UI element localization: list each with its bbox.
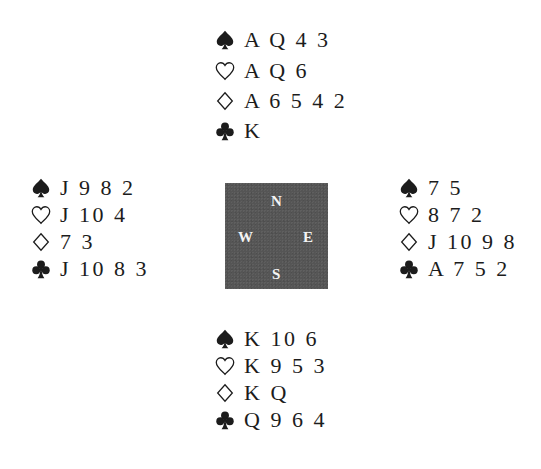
north-hand: A Q 4 3 A Q 6 A 6 5 4 2 K — [214, 26, 347, 144]
west-spades-row: J 9 8 2 — [30, 174, 149, 201]
south-spades: K 10 6 — [244, 325, 319, 352]
compass-south-label: S — [272, 267, 280, 282]
north-spades: A Q 4 3 — [244, 26, 331, 53]
diamond-outline-icon — [398, 231, 422, 253]
heart-outline-icon — [30, 204, 54, 226]
north-hearts-row: A Q 6 — [214, 57, 347, 84]
club-icon — [30, 258, 54, 280]
east-spades: 7 5 — [428, 174, 463, 201]
east-clubs: A 7 5 2 — [428, 255, 510, 282]
north-diamonds-row: A 6 5 4 2 — [214, 87, 347, 114]
west-hearts: J 10 4 — [60, 201, 128, 228]
compass-north-label: N — [271, 194, 282, 209]
east-spades-row: 7 5 — [398, 174, 517, 201]
west-diamonds-row: 7 3 — [30, 228, 149, 255]
south-hearts-row: K 9 5 3 — [214, 352, 327, 379]
south-diamonds: K Q — [244, 379, 289, 406]
diamond-outline-icon — [214, 90, 238, 112]
south-clubs-row: Q 9 6 4 — [214, 406, 327, 433]
north-clubs: K — [244, 117, 262, 144]
compass-west-label: W — [238, 230, 253, 245]
spade-icon — [214, 328, 238, 350]
west-hand: J 9 8 2 J 10 4 7 3 J 10 8 3 — [30, 174, 149, 282]
south-hand: K 10 6 K 9 5 3 K Q Q 9 6 4 — [214, 325, 327, 433]
west-clubs-row: J 10 8 3 — [30, 255, 149, 282]
diamond-outline-icon — [214, 382, 238, 404]
spade-icon — [30, 177, 54, 199]
east-diamonds: J 10 9 8 — [428, 228, 517, 255]
east-clubs-row: A 7 5 2 — [398, 255, 517, 282]
diamond-outline-icon — [30, 231, 54, 253]
west-clubs: J 10 8 3 — [60, 255, 149, 282]
east-hearts: 8 7 2 — [428, 201, 485, 228]
south-hearts: K 9 5 3 — [244, 352, 327, 379]
club-icon — [214, 409, 238, 431]
east-diamonds-row: J 10 9 8 — [398, 228, 517, 255]
south-diamonds-row: K Q — [214, 379, 327, 406]
club-icon — [398, 258, 422, 280]
north-clubs-row: K — [214, 117, 347, 144]
heart-outline-icon — [398, 204, 422, 226]
spade-icon — [214, 29, 238, 51]
east-hand: 7 5 8 7 2 J 10 9 8 A 7 5 2 — [398, 174, 517, 282]
spade-icon — [398, 177, 422, 199]
compass-table: N W E S — [225, 183, 328, 289]
west-diamonds: 7 3 — [60, 228, 95, 255]
east-hearts-row: 8 7 2 — [398, 201, 517, 228]
north-diamonds: A 6 5 4 2 — [244, 87, 347, 114]
compass-east-label: E — [303, 230, 313, 245]
heart-outline-icon — [214, 60, 238, 82]
north-hearts: A Q 6 — [244, 57, 309, 84]
west-hearts-row: J 10 4 — [30, 201, 149, 228]
club-icon — [214, 120, 238, 142]
south-spades-row: K 10 6 — [214, 325, 327, 352]
west-spades: J 9 8 2 — [60, 174, 136, 201]
north-spades-row: A Q 4 3 — [214, 26, 347, 53]
heart-outline-icon — [214, 355, 238, 377]
south-clubs: Q 9 6 4 — [244, 406, 327, 433]
